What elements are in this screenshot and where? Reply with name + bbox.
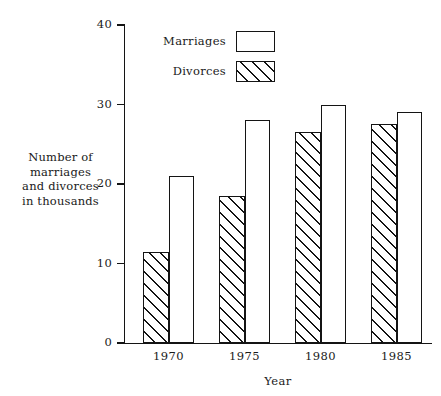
bar-marriages-1970 bbox=[169, 176, 195, 343]
x-axis-title: Year bbox=[124, 374, 432, 388]
y-axis-tick-label: 30 bbox=[84, 99, 112, 111]
y-axis-title: Number ofmarriagesand divorcesin thousan… bbox=[8, 150, 113, 208]
y-axis-title-line-1: Number of bbox=[8, 150, 113, 165]
y-axis-tick-label: 10 bbox=[84, 258, 112, 270]
chart-legend: MarriagesDivorces bbox=[150, 26, 275, 86]
bar-divorces-1980 bbox=[295, 132, 321, 343]
bar-divorces-1975 bbox=[219, 196, 245, 343]
legend-item-divorces: Divorces bbox=[150, 56, 275, 86]
bar-divorces-1970 bbox=[143, 252, 169, 343]
bar-marriages-1975 bbox=[245, 120, 271, 343]
x-axis-tick-label-1975: 1975 bbox=[209, 350, 280, 362]
y-axis-tick bbox=[117, 24, 125, 25]
y-axis-tick-label-text: 0 bbox=[84, 337, 112, 349]
legend-item-marriages: Marriages bbox=[150, 26, 275, 56]
x-axis-tick-label-1980: 1980 bbox=[285, 350, 356, 362]
bar-marriages-1980 bbox=[321, 105, 347, 344]
y-axis-tick bbox=[117, 183, 125, 184]
y-axis-title-line-2: marriages bbox=[8, 165, 113, 180]
y-axis-title-line-4: in thousands bbox=[8, 194, 113, 209]
x-axis-line bbox=[124, 343, 432, 344]
plot-area: 010203040 1970197519801985 Year Number o… bbox=[0, 0, 441, 396]
y-axis-tick-label: 40 bbox=[84, 19, 112, 31]
legend-label-marriages: Marriages bbox=[163, 34, 226, 48]
legend-swatch-marriages bbox=[236, 31, 275, 52]
chart-page: 010203040 1970197519801985 Year Number o… bbox=[0, 0, 441, 396]
x-axis-tick-label-1970: 1970 bbox=[133, 350, 204, 362]
y-axis-tick-label-text: 30 bbox=[84, 99, 112, 111]
y-axis-tick bbox=[117, 263, 125, 264]
y-axis-tick-label: 0 bbox=[84, 337, 112, 349]
y-axis-tick-label-text: 10 bbox=[84, 258, 112, 270]
y-axis-tick bbox=[117, 342, 125, 343]
bar-divorces-1985 bbox=[371, 124, 397, 343]
x-axis-tick-label-1985: 1985 bbox=[361, 350, 432, 362]
bar-marriages-1985 bbox=[397, 112, 423, 343]
legend-swatch-divorces bbox=[236, 61, 275, 82]
y-axis-tick-label-text: 40 bbox=[84, 19, 112, 31]
y-axis-tick bbox=[117, 104, 125, 105]
legend-label-divorces: Divorces bbox=[173, 64, 226, 78]
y-axis-title-line-3: and divorces bbox=[8, 179, 113, 194]
